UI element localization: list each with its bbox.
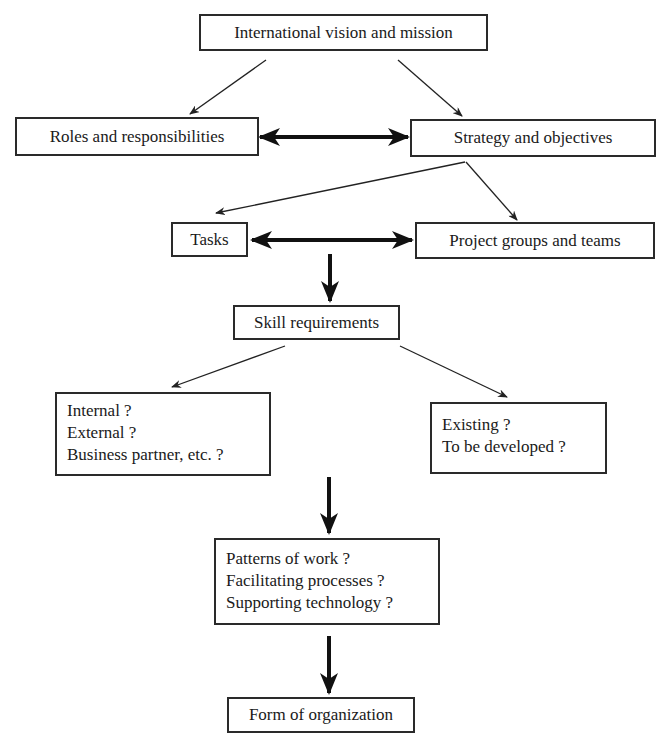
node-strategy: Strategy and objectives: [410, 119, 656, 157]
node-work-line: Patterns of work ?: [226, 548, 428, 570]
node-sourcing-line: Business partner, etc. ?: [67, 444, 259, 466]
node-development-line: To be developed ?: [442, 436, 595, 458]
connector-arrows: [0, 0, 670, 752]
node-form-label: Form of organization: [249, 704, 393, 726]
node-skills-label: Skill requirements: [254, 312, 379, 334]
node-sourcing-line: Internal ?: [67, 400, 259, 422]
node-roles: Roles and responsibilities: [15, 117, 259, 156]
node-work-line: Supporting technology ?: [226, 592, 428, 614]
arrow-strategy-tasks: [216, 162, 465, 213]
arrow-skills-development: [400, 346, 507, 397]
node-vision-label: International vision and mission: [234, 22, 453, 44]
node-development: Existing ? To be developed ?: [430, 402, 607, 474]
node-vision: International vision and mission: [199, 14, 488, 51]
node-form: Form of organization: [227, 697, 415, 733]
node-development-line: Existing ?: [442, 414, 595, 436]
node-skills: Skill requirements: [233, 305, 400, 340]
arrow-vision-strategy: [398, 60, 462, 116]
node-tasks: Tasks: [171, 222, 248, 257]
node-sourcing: Internal ? External ? Business partner, …: [55, 392, 271, 476]
arrow-skills-sourcing: [172, 346, 285, 387]
node-tasks-label: Tasks: [190, 229, 228, 251]
node-sourcing-line: External ?: [67, 422, 259, 444]
node-project-groups: Project groups and teams: [415, 222, 655, 259]
node-work-line: Facilitating processes ?: [226, 570, 428, 592]
node-strategy-label: Strategy and objectives: [454, 127, 613, 149]
arrow-strategy-projects: [466, 162, 517, 220]
arrow-vision-roles: [190, 60, 266, 114]
node-roles-label: Roles and responsibilities: [50, 126, 225, 148]
node-project-groups-label: Project groups and teams: [449, 230, 620, 252]
node-work: Patterns of work ? Facilitating processe…: [214, 538, 440, 625]
